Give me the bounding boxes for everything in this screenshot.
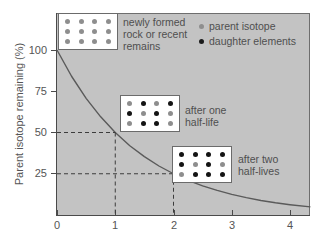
parent-dot-icon — [65, 19, 70, 24]
specimen-newly-formed — [58, 13, 118, 50]
parent-dot-icon — [106, 19, 111, 24]
daughter-dot-icon — [206, 162, 211, 167]
daughter-dot-icon — [206, 172, 211, 177]
parent-dot-icon — [65, 29, 70, 34]
legend-item-parent-isotope: parent isotope — [199, 20, 296, 33]
parent-dot-icon — [179, 172, 184, 177]
parent-dot-icon — [127, 101, 132, 106]
daughter-dot-icon — [193, 152, 198, 157]
legend-label-daughter-elements: daughter elements — [209, 36, 296, 47]
daughter-dot-icon — [206, 152, 211, 157]
parent-dot-icon — [92, 29, 97, 34]
parent-isotope-dot-icon — [199, 24, 204, 29]
daughter-dot-icon — [193, 172, 198, 177]
parent-dot-icon — [106, 39, 111, 44]
parent-dot-icon — [168, 111, 173, 116]
parent-dot-icon — [79, 29, 84, 34]
daughter-dot-icon — [179, 162, 184, 167]
daughter-dot-icon — [141, 121, 146, 126]
daughter-dot-icon — [127, 111, 132, 116]
daughter-dot-icon — [179, 152, 184, 157]
decay-curve — [57, 50, 310, 207]
annotation-after-two-half-lives: after two half-lives — [238, 153, 279, 177]
parent-dot-icon — [154, 101, 159, 106]
parent-dot-icon — [127, 121, 132, 126]
daughter-dot-icon — [141, 101, 146, 106]
parent-dot-icon — [79, 39, 84, 44]
daughter-dot-icon — [168, 101, 173, 106]
parent-dot-icon — [193, 162, 198, 167]
daughter-elements-dot-icon — [199, 39, 204, 44]
parent-dot-icon — [168, 121, 173, 126]
daughter-dot-icon — [220, 152, 225, 157]
daughter-dot-icon — [220, 172, 225, 177]
daughter-dot-icon — [154, 121, 159, 126]
parent-dot-icon — [141, 111, 146, 116]
parent-dot-icon — [92, 39, 97, 44]
specimen-after-one-half-life — [120, 95, 180, 132]
legend: parent isotope daughter elements — [199, 20, 296, 50]
legend-label-parent-isotope: parent isotope — [209, 21, 276, 32]
parent-dot-icon — [65, 39, 70, 44]
daughter-dot-icon — [154, 111, 159, 116]
specimen-after-two-half-lives — [172, 146, 232, 183]
half-life-guide-lines — [57, 133, 174, 216]
radioactive-decay-chart: 100 75 50 25 0 1 2 3 4 Parent isotope re… — [0, 0, 321, 244]
parent-dot-icon — [220, 162, 225, 167]
legend-item-daughter-elements: daughter elements — [199, 35, 296, 48]
parent-dot-icon — [92, 19, 97, 24]
parent-dot-icon — [79, 19, 84, 24]
parent-dot-icon — [106, 29, 111, 34]
annotation-newly-formed: newly formed rock or recent remains — [123, 16, 187, 52]
annotation-after-one-half-life: after one half-life — [185, 104, 226, 128]
